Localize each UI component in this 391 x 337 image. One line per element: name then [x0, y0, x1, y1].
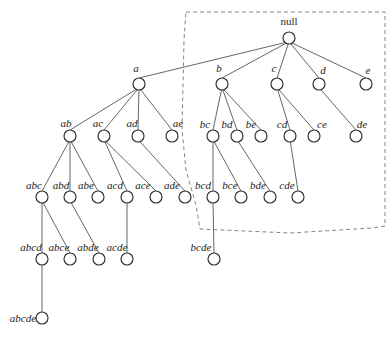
node-label-cde: cde: [279, 179, 294, 191]
node-label-null: null: [280, 15, 297, 27]
node-bcd: [207, 191, 219, 203]
node-label-abe: abe: [78, 179, 94, 191]
node-label-ae: ae: [173, 117, 184, 129]
node-label-ade: ade: [164, 179, 180, 191]
edge-bcd-bcde: [213, 201, 214, 253]
node-cde: [292, 191, 304, 203]
edge-null-a: [139, 42, 289, 78]
edge-a-ae: [139, 88, 172, 130]
node-acd: [121, 191, 133, 203]
node-labels: nullabcdeabacadaebcbdbecdcedeabcabdabeac…: [10, 15, 371, 324]
node-abcd: [36, 253, 48, 265]
node-de: [350, 130, 362, 142]
node-label-bce: bce: [222, 179, 237, 191]
node-label-acde: acde: [107, 241, 128, 253]
node-ab: [64, 130, 76, 142]
node-label-bde: bde: [250, 179, 266, 191]
node-label-ac: ac: [93, 117, 104, 129]
node-label-c: c: [272, 62, 277, 74]
node-bce: [235, 191, 247, 203]
node-null: [283, 32, 295, 44]
node-abce: [64, 253, 76, 265]
set-enumeration-tree-diagram: nullabcdeabacadaebcbdbecdcedeabcabdabeac…: [0, 0, 391, 337]
node-abd: [64, 191, 76, 203]
node-abde: [93, 253, 105, 265]
edge-null-d: [289, 42, 319, 78]
node-acde: [121, 253, 133, 265]
node-label-ace: ace: [135, 179, 150, 191]
edge-null-e: [289, 42, 366, 78]
node-label-bcde: bcde: [191, 241, 212, 253]
node-b: [216, 78, 228, 90]
node-label-abcd: abcd: [20, 241, 42, 253]
node-ade: [179, 191, 191, 203]
node-label-ce: ce: [317, 118, 327, 130]
node-d: [313, 78, 325, 90]
node-label-acd: acd: [107, 179, 123, 191]
node-ce: [308, 130, 320, 142]
node-label-bcd: bcd: [195, 179, 211, 191]
node-cd: [284, 130, 296, 142]
node-c: [271, 78, 283, 90]
node-label-abc: abc: [26, 179, 42, 191]
node-label-abde: abde: [77, 241, 99, 253]
node-label-abd: abd: [53, 179, 70, 191]
node-bd: [231, 130, 243, 142]
edge-a-ad: [138, 88, 139, 130]
node-ac: [98, 130, 110, 142]
node-ad: [132, 130, 144, 142]
node-label-bc: bc: [200, 118, 211, 130]
node-bde: [264, 191, 276, 203]
node-label-be: be: [246, 118, 257, 130]
node-ae: [166, 130, 178, 142]
node-label-ab: ab: [61, 117, 73, 129]
node-label-e: e: [366, 64, 371, 76]
node-bcde: [208, 253, 220, 265]
node-abe: [92, 191, 104, 203]
node-label-d: d: [320, 64, 326, 76]
node-label-cd: cd: [277, 118, 288, 130]
node-bc: [207, 130, 219, 142]
node-a: [133, 78, 145, 90]
node-e: [360, 78, 372, 90]
node-abcde: [36, 312, 48, 324]
node-ace: [150, 191, 162, 203]
node-label-abce: abce: [49, 241, 70, 253]
node-label-a: a: [133, 62, 139, 74]
node-label-ad: ad: [127, 117, 139, 129]
node-label-abcde: abcde: [10, 312, 36, 324]
node-abc: [36, 191, 48, 203]
node-label-de: de: [357, 118, 368, 130]
node-label-b: b: [216, 62, 222, 74]
node-label-bd: bd: [222, 118, 234, 130]
node-be: [255, 130, 267, 142]
